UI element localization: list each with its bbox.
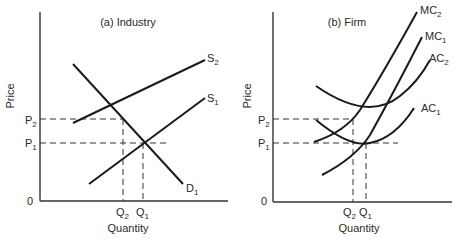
price-label-p2: P2: [25, 114, 37, 129]
y-axis-label: Price: [241, 83, 253, 108]
average-cost-curve-ac2: [316, 60, 430, 107]
x-axis-label: Quantity: [108, 222, 149, 234]
curve-label-s1: S1: [207, 92, 219, 107]
price-label-p1: P1: [25, 137, 37, 152]
curve-label-ac1: AC1: [421, 102, 441, 117]
quantity-label-q1: Q1: [359, 206, 373, 221]
x-axis-label: Quantity: [339, 222, 380, 234]
curve-label-mc2: MC2: [420, 4, 442, 19]
diagram-canvas: (a) Industry Price Quantity 0 P2 P1 Q2 Q…: [0, 0, 459, 248]
curve-label-s2: S2: [207, 52, 219, 67]
quantity-label-q1: Q1: [136, 206, 150, 221]
demand-curve-d1: [73, 64, 183, 184]
price-label-p1: P1: [258, 137, 270, 152]
curve-label-mc1: MC1: [425, 30, 447, 45]
origin-label: 0: [27, 195, 33, 207]
supply-curve-s1: [89, 98, 205, 184]
y-axis-label: Price: [4, 83, 16, 108]
quantity-label-q2: Q2: [116, 206, 130, 221]
origin-label: 0: [261, 195, 267, 207]
quantity-label-q2: Q2: [343, 206, 357, 221]
panel-firm: (b) Firm Price Quantity 0 P2 P1 Q2 Q1 MC…: [241, 4, 452, 234]
panel-industry: (a) Industry Price Quantity 0 P2 P1 Q2 Q…: [4, 12, 228, 234]
panel-title: (b) Firm: [328, 16, 367, 28]
price-label-p2: P2: [258, 114, 270, 129]
average-cost-curve-ac1: [316, 108, 414, 144]
panel-title: (a) Industry: [100, 16, 156, 28]
curve-label-d1: D1: [186, 182, 199, 197]
curve-label-ac2: AC2: [429, 52, 449, 67]
